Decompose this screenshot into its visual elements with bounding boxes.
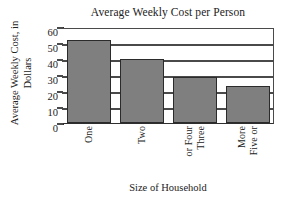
x-axis-category-labels: OneTwoThreeor FourFive orMore [62,126,274,178]
y-axis-tick-mark [57,43,63,45]
y-axis-tick-label: 60 [34,28,58,39]
y-axis-tick-mark [57,123,63,125]
y-axis-tick-labels: 0102030405060 [34,28,58,134]
y-axis-tick-label: 30 [34,76,58,87]
x-axis-category-label-line: Five or [248,126,260,155]
y-axis-title-line-2: Dollars [21,17,34,129]
x-axis-category-label-line: Two [136,126,148,144]
y-axis-tick-label: 0 [34,124,58,135]
x-axis-category-label-line: One [83,126,95,143]
y-axis-tick-label: 20 [34,92,58,103]
y-axis-title-line-1: Average Weekly Cost, in [8,17,21,129]
bar [173,77,217,123]
x-axis-category-label: Five orMore [221,126,274,178]
y-axis-tick-label: 10 [34,108,58,119]
chart-title: Average Weekly Cost per Person [62,6,274,19]
x-axis-category-label: Two [115,126,168,178]
bar [67,40,111,123]
bar [226,86,270,123]
y-axis-tick-mark [57,91,63,93]
bar [120,59,164,123]
x-axis-category-label-line: or Four [183,126,195,156]
bar-chart-figure: Average Weekly Cost per Person Average W… [0,0,300,204]
y-axis-title-text: Average Weekly Cost, in Dollars [8,17,34,129]
x-axis-category-label: Threeor Four [168,126,221,178]
y-axis-tick-label: 50 [34,44,58,55]
x-axis-title: Size of Household [62,182,274,194]
x-axis-category-label-line: More [236,126,248,148]
y-axis-tick-mark [57,75,63,77]
y-axis-tick-mark [57,107,63,109]
plot-area [62,28,274,124]
y-axis-tick-mark [57,27,63,29]
x-axis-category-label: One [62,126,115,178]
y-axis-tick-label: 40 [34,60,58,71]
y-axis-tick-mark [57,59,63,61]
x-axis-category-label-line: Three [195,126,207,150]
y-axis-title: Average Weekly Cost, in Dollars [4,18,38,128]
